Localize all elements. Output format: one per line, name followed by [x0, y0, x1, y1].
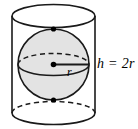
north-pole-dot	[51, 26, 56, 31]
radius-label: r	[67, 66, 72, 78]
south-pole-dot	[51, 97, 56, 102]
geometry-figure-sphere-in-cylinder: h = 2r r	[0, 0, 138, 129]
center-point-dot	[51, 62, 57, 68]
height-label: h = 2r	[97, 57, 135, 71]
